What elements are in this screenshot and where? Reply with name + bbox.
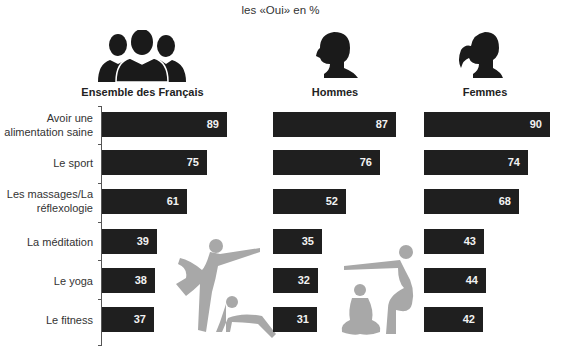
man-head-icon	[310, 30, 360, 78]
group-people-icon	[96, 30, 188, 82]
axis-tick	[98, 106, 101, 107]
bar-femmes-fitness: 42	[424, 307, 483, 332]
bar-hommes-meditation: 35	[273, 229, 322, 254]
axis-tick	[98, 183, 101, 184]
yoga-figures-left-icon	[172, 238, 277, 342]
category-label: Le yoga	[54, 268, 93, 293]
category-label: La méditation	[27, 229, 93, 254]
axis-tick	[98, 345, 101, 346]
bar-hommes-massages: 52	[273, 189, 346, 214]
bar-ensemble-sport: 75	[102, 150, 207, 175]
bar-femmes-sport: 74	[424, 150, 528, 175]
category-label: Les massages/La réflexologie	[7, 186, 93, 216]
bar-ensemble-fitness: 37	[102, 307, 154, 332]
bar-femmes-alimentation: 90	[424, 112, 550, 137]
category-label: Le fitness	[46, 307, 93, 332]
bar-ensemble-yoga: 38	[102, 268, 155, 293]
bar-ensemble-meditation: 39	[102, 229, 157, 254]
bar-hommes-sport: 76	[273, 150, 380, 175]
group-label-ensemble: Ensemble des Français	[80, 86, 205, 98]
category-label: Le sport	[53, 150, 93, 175]
bar-hommes-alimentation: 87	[273, 112, 396, 137]
axis-tick	[98, 260, 101, 261]
axis-tick	[98, 144, 101, 145]
bar-ensemble-alimentation: 89	[102, 112, 227, 137]
group-label-femmes: Femmes	[445, 86, 525, 98]
axis-tick	[98, 299, 101, 300]
bar-ensemble-massages: 61	[102, 189, 187, 214]
axis-tick	[98, 222, 101, 223]
yoga-figures-right-icon	[340, 244, 424, 340]
bar-femmes-meditation: 43	[424, 229, 484, 254]
category-label: Avoir une alimentation saine	[4, 110, 93, 140]
bar-femmes-yoga: 44	[424, 268, 486, 293]
chart-title: les «Oui» en %	[0, 4, 561, 16]
woman-head-icon	[455, 30, 505, 78]
bar-femmes-massages: 68	[424, 189, 519, 214]
bar-hommes-yoga: 32	[273, 268, 318, 293]
bar-hommes-fitness: 31	[273, 307, 317, 332]
group-label-hommes: Hommes	[295, 86, 375, 98]
